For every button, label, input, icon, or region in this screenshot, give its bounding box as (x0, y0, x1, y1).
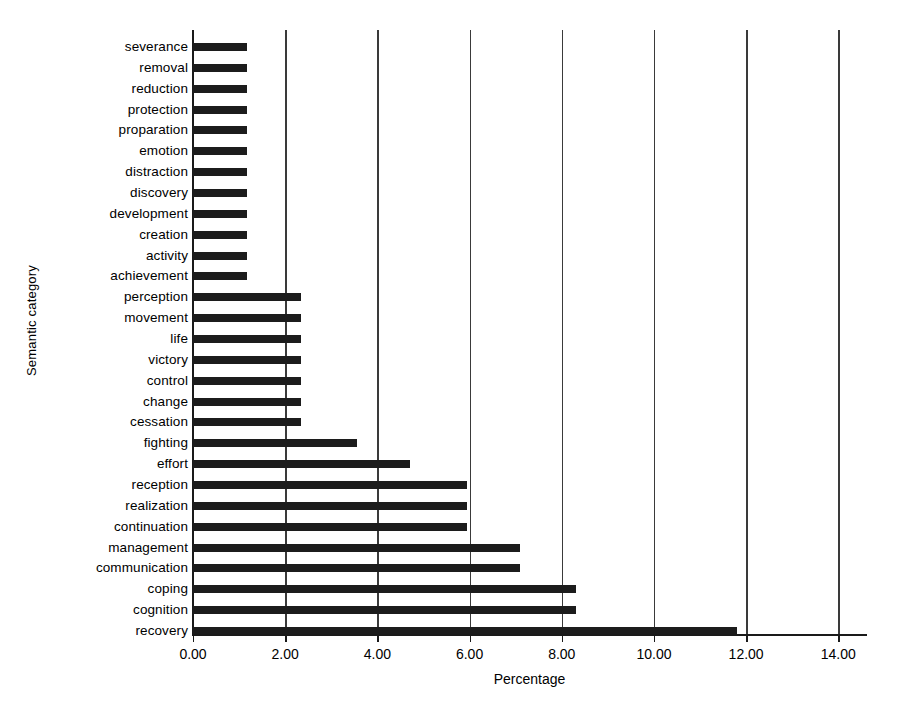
bar (193, 502, 467, 510)
x-axis-title: Percentage (193, 671, 866, 687)
category-label: control (60, 374, 188, 388)
x-tick-label: 0.00 (153, 646, 233, 662)
bar (193, 356, 301, 364)
tick-mark-8.00 (562, 635, 563, 642)
category-label: victory (60, 353, 188, 367)
tick-mark-12.00 (746, 635, 747, 642)
bar (193, 585, 576, 593)
category-label: life (60, 332, 188, 346)
bar (193, 168, 247, 176)
bar (193, 252, 247, 260)
bar (193, 272, 247, 280)
figure-caption (26, 706, 526, 720)
y-axis-tick-labels: severanceremovalreductionprotectionpropa… (60, 30, 188, 635)
bar (193, 106, 247, 114)
y-axis-title-text: Semantic category (25, 264, 40, 375)
category-label: change (60, 395, 188, 409)
bar (193, 189, 247, 197)
x-tick-label: 4.00 (337, 646, 417, 662)
tick-mark-6.00 (470, 635, 471, 642)
gridline-10.00 (654, 30, 655, 635)
category-label: fighting (60, 436, 188, 450)
x-tick-label: 6.00 (430, 646, 510, 662)
bar (193, 481, 467, 489)
x-tick-label: 14.00 (798, 646, 878, 662)
bar (193, 43, 247, 51)
gridline-8.00 (562, 30, 563, 635)
bar (193, 85, 247, 93)
tick-mark-0.00 (193, 635, 194, 642)
category-label: proparation (60, 123, 188, 137)
tick-mark-14.00 (838, 635, 839, 642)
category-label: creation (60, 228, 188, 242)
bar (193, 523, 467, 531)
gridline-12.00 (746, 30, 747, 635)
bar (193, 147, 247, 155)
category-label: activity (60, 249, 188, 263)
bar (193, 314, 301, 322)
category-label: effort (60, 457, 188, 471)
category-label: distraction (60, 165, 188, 179)
bar (193, 398, 301, 406)
category-label: recovery (60, 624, 188, 638)
bar (193, 293, 301, 301)
bar (193, 544, 520, 552)
tick-mark-2.00 (285, 635, 286, 642)
category-label: achievement (60, 269, 188, 283)
bar (193, 377, 301, 385)
x-tick-label: 2.00 (245, 646, 325, 662)
x-tick-label: 10.00 (614, 646, 694, 662)
x-axis-line (192, 634, 867, 636)
bar (193, 564, 520, 572)
category-label: perception (60, 290, 188, 304)
tick-mark-4.00 (377, 635, 378, 642)
x-tick-label: 8.00 (522, 646, 602, 662)
bar (193, 210, 247, 218)
bar (193, 460, 410, 468)
category-label: coping (60, 582, 188, 596)
bar (193, 231, 247, 239)
category-label: discovery (60, 186, 188, 200)
category-label: movement (60, 311, 188, 325)
bar (193, 335, 301, 343)
bar (193, 126, 247, 134)
category-label: severance (60, 40, 188, 54)
y-axis-title: Semantic category (22, 0, 42, 640)
category-label: reduction (60, 82, 188, 96)
category-label: continuation (60, 520, 188, 534)
bar (193, 439, 357, 447)
category-label: communication (60, 561, 188, 575)
bar-chart-figure: Semantic category severanceremovalreduct… (0, 0, 919, 723)
gridline-14.00 (838, 30, 839, 635)
x-tick-label: 12.00 (706, 646, 786, 662)
category-label: cessation (60, 415, 188, 429)
category-label: reception (60, 478, 188, 492)
category-label: development (60, 207, 188, 221)
category-label: emotion (60, 144, 188, 158)
category-label: realization (60, 499, 188, 513)
bar (193, 606, 576, 614)
category-label: protection (60, 103, 188, 117)
category-label: management (60, 541, 188, 555)
category-label: cognition (60, 603, 188, 617)
plot-area: 0.002.004.006.008.0010.0012.0014.00 (193, 30, 866, 635)
category-label: removal (60, 61, 188, 75)
tick-mark-10.00 (654, 635, 655, 642)
bar (193, 418, 301, 426)
bar (193, 64, 247, 72)
